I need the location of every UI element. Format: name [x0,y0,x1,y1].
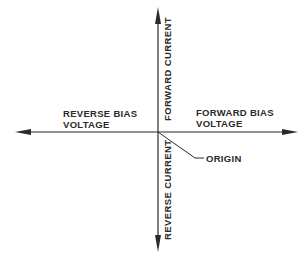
up-arrowhead-icon [155,7,161,24]
forward-current-label: FORWARD CURRENT [163,17,173,121]
reverse-bias-line2: VOLTAGE [63,119,137,130]
forward-bias-voltage-label: FORWARD BIAS VOLTAGE [196,107,274,129]
reverse-bias-line1: REVERSE BIAS [63,108,137,119]
forward-bias-line2: VOLTAGE [196,118,274,129]
origin-label: ORIGIN [206,153,242,164]
reverse-current-label: REVERSE CURRENT [163,140,173,241]
forward-bias-line1: FORWARD BIAS [196,107,274,118]
reverse-bias-voltage-label: REVERSE BIAS VOLTAGE [63,108,137,130]
right-arrowhead-icon [282,129,298,135]
left-arrowhead-icon [15,129,31,135]
diode-iv-axes-diagram: REVERSE BIAS VOLTAGE FORWARD BIAS VOLTAG… [0,0,305,257]
down-arrowhead-icon [155,235,161,252]
